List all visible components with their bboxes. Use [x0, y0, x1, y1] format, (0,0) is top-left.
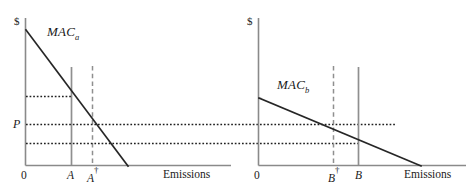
panel-a-tick-A-text: A	[67, 169, 74, 181]
panel-a-y-axis-label: $	[14, 16, 20, 27]
dagger-icon: †	[335, 165, 340, 175]
panel-b-tick-B-dagger-text: B	[328, 172, 335, 184]
panel-b-y-axis-label: $	[247, 16, 253, 27]
panel-b-curve-label: MACb	[277, 78, 310, 94]
panel-a-x-axis-label: Emissions	[163, 169, 210, 181]
panel-b-vertical-lines	[334, 66, 359, 165]
panel-b-tick-label-B: B	[355, 170, 362, 182]
panel-b-curve-label-text: MAC	[277, 77, 305, 92]
panel-b-mac-curve	[259, 98, 421, 166]
panel-a-tick-A-dagger-text: A	[87, 172, 94, 184]
panel-b-x-axis-label: Emissions	[404, 169, 451, 181]
panel-a-curve-label: MACa	[47, 25, 80, 41]
panel-b-tick-B-text: B	[355, 169, 362, 181]
panel-b-origin-label: 0	[254, 170, 260, 182]
panel-a-origin-label: 0	[21, 170, 27, 182]
panel-a-curve-label-text: MAC	[47, 24, 75, 39]
panel-b-tick-label-B-dagger: B†	[328, 170, 340, 184]
panel-a-tick-label-A-dagger: A†	[87, 170, 99, 184]
mac-curves-figure: $ MACa P 0 A A† Emissions $ MACb 0 B† B …	[0, 0, 471, 192]
panel-a-tick-label-A: A	[67, 170, 74, 182]
panel-a-price-label: P	[13, 118, 20, 130]
panel-a-mac-curve	[26, 30, 128, 166]
dagger-icon: †	[94, 165, 99, 175]
panel-b-curve-label-subscript: b	[305, 85, 309, 95]
panel-a-curve-label-subscript: a	[75, 32, 79, 42]
